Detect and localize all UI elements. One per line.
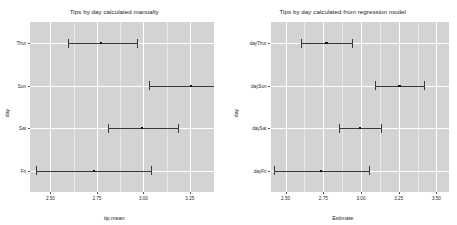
gridline-minor-vertical xyxy=(304,22,305,192)
panel-left: Tips by day calculated manually day tip.… xyxy=(0,0,229,225)
error-bar-cap-high xyxy=(178,124,179,133)
x-axis-tick-mark xyxy=(143,192,144,194)
error-bar-cap-high xyxy=(369,166,370,175)
gridline-major-horizontal xyxy=(271,43,449,44)
data-point xyxy=(325,42,327,44)
error-bar-cap-low xyxy=(301,39,302,48)
gridline-major-vertical xyxy=(399,22,400,192)
x-axis-tick-mark xyxy=(361,192,362,194)
y-axis-tick-mark xyxy=(268,86,270,87)
gridline-minor-vertical xyxy=(74,22,75,192)
panel-left-plot-area xyxy=(30,22,214,192)
panel-right-title: Tips by day calculated from regression m… xyxy=(229,8,457,15)
panel-left-title: Tips by day calculated manually xyxy=(0,8,229,15)
y-axis-tick-mark xyxy=(268,128,270,129)
panel-left-x-axis-label: tip.mean xyxy=(0,215,229,221)
error-bar-cap-low xyxy=(68,39,69,48)
x-axis-tick-mark xyxy=(50,192,51,194)
gridline-major-vertical xyxy=(436,22,437,192)
x-axis-tick-label: 2.75 xyxy=(319,196,328,201)
error-bar-line xyxy=(149,86,214,87)
panel-left-y-axis-label: day xyxy=(4,108,10,116)
error-bar-cap-low xyxy=(149,81,150,90)
gridline-major-vertical xyxy=(361,22,362,192)
y-axis-tick-label: dayFri xyxy=(231,168,267,173)
y-axis-tick-mark xyxy=(28,43,30,44)
gridline-minor-vertical xyxy=(167,22,168,192)
y-axis-tick-label: dayThur xyxy=(231,41,267,46)
y-axis-tick-mark xyxy=(28,128,30,129)
gridline-major-vertical xyxy=(190,22,191,192)
gridline-major-vertical xyxy=(50,22,51,192)
error-bar-cap-high xyxy=(151,166,152,175)
x-axis-tick-mark xyxy=(97,192,98,194)
y-axis-tick-mark xyxy=(268,43,270,44)
data-point xyxy=(359,127,361,129)
x-axis-tick-label: 2.50 xyxy=(46,196,55,201)
gridline-major-vertical xyxy=(97,22,98,192)
x-axis-tick-label: 3.25 xyxy=(394,196,403,201)
error-bar-cap-low xyxy=(274,166,275,175)
error-bar-cap-high xyxy=(424,81,425,90)
gridline-minor-vertical xyxy=(380,22,381,192)
gridline-minor-vertical xyxy=(418,22,419,192)
gridline-minor-vertical xyxy=(120,22,121,192)
error-bar-cap-high xyxy=(381,124,382,133)
x-axis-tick-mark xyxy=(323,192,324,194)
data-point xyxy=(320,170,322,172)
x-axis-tick-label: 3.00 xyxy=(357,196,366,201)
y-axis-tick-label: Fri xyxy=(0,168,26,173)
gridline-minor-vertical xyxy=(342,22,343,192)
y-axis-tick-label: daySun xyxy=(231,83,267,88)
y-axis-tick-mark xyxy=(28,171,30,172)
x-axis-tick-label: 2.50 xyxy=(281,196,290,201)
error-bar-cap-low xyxy=(36,166,37,175)
x-axis-tick-mark xyxy=(286,192,287,194)
x-axis-tick-mark xyxy=(436,192,437,194)
x-axis-tick-label: 3.25 xyxy=(185,196,194,201)
x-axis-tick-mark xyxy=(399,192,400,194)
data-point xyxy=(141,127,143,129)
error-bar-cap-low xyxy=(339,124,340,133)
x-axis-tick-label: 3.50 xyxy=(432,196,441,201)
error-bar-cap-low xyxy=(108,124,109,133)
data-point xyxy=(190,85,192,87)
y-axis-tick-label: Sun xyxy=(0,83,26,88)
y-axis-tick-mark xyxy=(28,86,30,87)
figure-canvas: Tips by day calculated manually day tip.… xyxy=(0,0,457,225)
error-bar-cap-high xyxy=(137,39,138,48)
error-bar-cap-low xyxy=(375,81,376,90)
gridline-major-vertical xyxy=(143,22,144,192)
x-axis-tick-label: 3.00 xyxy=(139,196,148,201)
error-bar-line xyxy=(68,43,137,44)
y-axis-tick-label: daySat xyxy=(231,126,267,131)
data-point xyxy=(100,42,102,44)
data-point xyxy=(398,85,400,87)
panel-right: Tips by day calculated from regression m… xyxy=(229,0,457,225)
y-axis-tick-mark xyxy=(268,171,270,172)
gridline-major-vertical xyxy=(286,22,287,192)
panel-right-plot-area xyxy=(271,22,449,192)
x-axis-tick-mark xyxy=(190,192,191,194)
panel-right-x-axis-label: Estimate xyxy=(229,215,457,221)
panel-right-y-axis-label: day xyxy=(233,108,239,116)
error-bar-cap-high xyxy=(352,39,353,48)
y-axis-tick-label: Sat xyxy=(0,126,26,131)
x-axis-tick-label: 2.75 xyxy=(92,196,101,201)
y-axis-tick-label: Thur xyxy=(0,41,26,46)
data-point xyxy=(93,170,95,172)
gridline-major-vertical xyxy=(323,22,324,192)
